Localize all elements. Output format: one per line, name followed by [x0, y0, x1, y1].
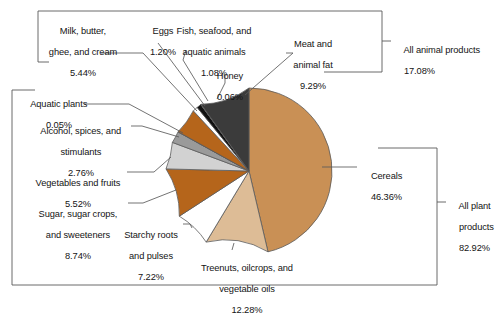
label-all-animal-products-line1: All animal products [403, 45, 480, 55]
label-all-animal-products-line2: 17.08% [404, 66, 435, 76]
label-all-plant-products-line1: All plant [458, 201, 490, 211]
label-honey-line2: 0.06% [217, 92, 243, 102]
label-all-animal-products: All animal products 17.08% [394, 34, 500, 87]
label-aquatic-plants-line1: Aquatic plants [30, 99, 87, 109]
label-cereals-line1: Cereals [371, 171, 402, 181]
label-honey-line1: Honey [217, 71, 243, 81]
label-treenuts: Treenuts, oilcrops, and vegetable oils 1… [182, 252, 302, 317]
label-starchy-roots-line3: 7.22% [138, 272, 164, 282]
label-sugar-line2: and sweeteners [46, 230, 110, 240]
label-milk-line2: ghee, and cream [49, 47, 117, 57]
label-cereals: Cereals 46.36% [361, 160, 431, 213]
label-all-plant-products: All plant products 82.92% [449, 190, 503, 264]
label-all-plant-products-line2: products [459, 222, 494, 232]
label-honey: Honey 0.06% [196, 60, 254, 113]
label-all-plant-products-line3: 82.92% [459, 243, 490, 253]
label-starchy-roots: Starchy roots and pulses 7.22% [108, 219, 184, 293]
label-meat: Meat and animal fat 9.29% [277, 28, 339, 102]
label-alcohol-line2: stimulants [61, 147, 102, 157]
label-sugar-line3: 8.74% [65, 251, 91, 261]
label-cereals-line2: 46.36% [371, 192, 402, 202]
label-starchy-roots-line2: and pulses [129, 251, 173, 261]
label-milk-line1: Milk, butter, [60, 26, 106, 36]
label-milk: Milk, butter, ghee, and cream 5.44% [26, 15, 130, 89]
label-meat-line2: animal fat [293, 60, 332, 70]
label-treenuts-line2: vegetable oils [219, 284, 274, 294]
leader-line-treenuts [232, 243, 234, 250]
label-treenuts-line1: Treenuts, oilcrops, and [201, 263, 293, 273]
leader-line-sugar [128, 190, 176, 203]
label-vegetables-line1: Vegetables and fruits [36, 178, 121, 188]
label-fish-line2: aquatic animals [182, 47, 245, 57]
leader-line-alcohol [131, 126, 179, 137]
label-fish-line1: Fish, seafood, and [177, 26, 252, 36]
label-meat-line3: 9.29% [300, 81, 326, 91]
label-sugar-line1: Sugar, sugar crops, [39, 209, 118, 219]
label-starchy-roots-line1: Starchy roots [124, 230, 177, 240]
label-milk-line3: 5.44% [70, 68, 96, 78]
label-meat-line1: Meat and [294, 39, 332, 49]
label-treenuts-line3: 12.28% [232, 305, 263, 315]
leader-line-starchy-roots [183, 224, 192, 228]
label-alcohol-line1: Alcohol, spices, and [40, 126, 121, 136]
leader-line-vegetables [127, 157, 171, 172]
